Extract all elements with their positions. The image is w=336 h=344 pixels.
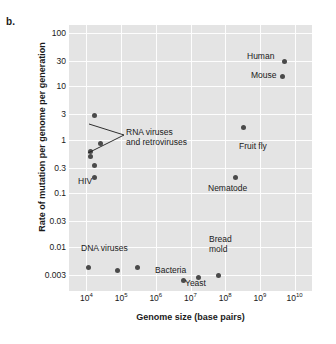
data-point [86, 265, 91, 270]
annotation-rna-viruses-line1: RNA viruses [126, 127, 173, 137]
annotation-bread-mold: Bread mold [209, 234, 249, 254]
annotation-nematode: Nematode [208, 183, 247, 193]
y-tick-label: 0.01 [49, 243, 66, 252]
data-point [98, 141, 103, 146]
x-tick-label: 105 [115, 293, 128, 303]
data-point [233, 175, 238, 180]
data-point [88, 154, 93, 159]
x-tick-label: 1010 [287, 293, 303, 303]
annotation-fruit-fly: Fruit fly [239, 141, 267, 151]
x-tick-label: 104 [80, 293, 93, 303]
annotation-bread-mold-line1: Bread [209, 234, 232, 244]
data-point [92, 113, 97, 118]
annotation-dna-viruses: DNA viruses [81, 243, 128, 253]
y-tick-label: 3 [61, 110, 66, 119]
y-tick-label: 0.1 [54, 189, 66, 198]
y-tick-label: 1 [61, 136, 66, 145]
annotation-yeast: Yeast [185, 278, 206, 288]
panel-label: b. [6, 16, 15, 27]
data-point [88, 149, 93, 154]
y-tick-label: 100 [52, 29, 66, 38]
data-point [216, 273, 221, 278]
gridline-vertical [260, 25, 261, 291]
annotation-mouse: Mouse [251, 70, 277, 80]
annotation-bacteria: Bacteria [155, 265, 186, 275]
gridline-vertical [191, 25, 192, 291]
y-tick-label: 30 [57, 57, 66, 66]
annotation-bread-mold-line2: mold [209, 244, 227, 254]
y-tick-label: 0.03 [49, 217, 66, 226]
x-axis-tick-labels: 1041051061071081091010 [69, 293, 312, 309]
data-point [115, 268, 120, 273]
annotation-human: Human [247, 51, 274, 61]
data-point [135, 265, 140, 270]
y-axis-tick-labels: 1003010310.30.10.030.010.003 [38, 25, 66, 291]
gridline-vertical [156, 25, 157, 291]
x-tick-label: 108 [219, 293, 232, 303]
data-point [280, 74, 285, 79]
y-tick-label: 10 [57, 82, 66, 91]
plot-area: RNA viruses and retroviruses HIV DNA vir… [69, 25, 312, 291]
x-tick-label: 107 [184, 293, 197, 303]
figure-panel-b: b. Rate of mutation per genome per gener… [0, 0, 336, 344]
y-tick-label: 0.003 [45, 271, 66, 280]
x-axis-title: Genome size (base pairs) [69, 312, 312, 322]
x-tick-label: 109 [253, 293, 266, 303]
gridline-vertical [295, 25, 296, 291]
data-point [92, 175, 97, 180]
x-tick-label: 106 [149, 293, 162, 303]
annotation-rna-viruses-line2: and retroviruses [126, 137, 187, 147]
y-tick-label: 0.3 [54, 164, 66, 173]
data-point [282, 59, 287, 64]
annotation-hiv: HIV [78, 176, 92, 186]
annotation-rna-viruses: RNA viruses and retroviruses [126, 127, 218, 147]
data-point [241, 125, 246, 130]
